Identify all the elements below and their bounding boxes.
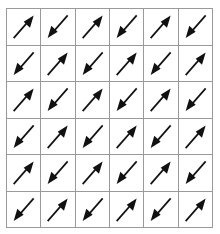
grid-cell	[76, 192, 110, 229]
grid-cell	[7, 46, 41, 83]
grid-cell	[110, 82, 144, 119]
grid-cell	[7, 9, 41, 46]
grid-cell	[179, 155, 213, 192]
grid-cell	[110, 9, 144, 46]
grid-cell	[7, 192, 41, 229]
grid-cell	[41, 9, 75, 46]
grid-cell	[144, 119, 178, 156]
grid-cell	[179, 46, 213, 83]
grid-cell	[76, 119, 110, 156]
grid-cell	[41, 119, 75, 156]
grid-cell	[76, 82, 110, 119]
grid-cell	[144, 192, 178, 229]
grid-cell	[7, 155, 41, 192]
grid-cell	[110, 192, 144, 229]
grid-cell	[7, 119, 41, 156]
grid-cell	[76, 46, 110, 83]
grid-cell	[41, 192, 75, 229]
grid-cell	[179, 82, 213, 119]
grid-cell	[110, 46, 144, 83]
grid-cell	[144, 46, 178, 83]
grid-cell	[41, 46, 75, 83]
grid-cell	[144, 155, 178, 192]
grid-cell	[76, 9, 110, 46]
grid-cell	[41, 82, 75, 119]
grid-cell	[179, 192, 213, 229]
grid-cell	[179, 9, 213, 46]
grid-cell	[179, 119, 213, 156]
arrow-grid-figure	[0, 0, 220, 234]
grid-cell	[41, 155, 75, 192]
grid-cell	[7, 82, 41, 119]
grid-cell	[144, 9, 178, 46]
arrow-grid	[6, 8, 213, 228]
grid-cell	[144, 82, 178, 119]
grid-cell	[110, 155, 144, 192]
grid-cell	[110, 119, 144, 156]
grid-cell	[76, 155, 110, 192]
